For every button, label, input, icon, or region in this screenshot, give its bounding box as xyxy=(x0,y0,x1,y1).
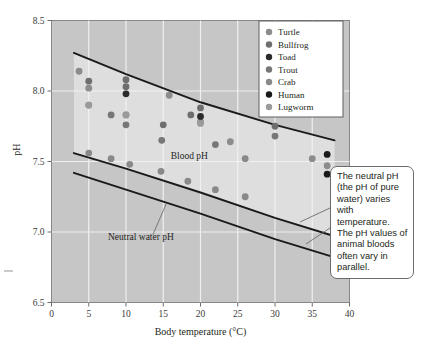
data-point-human xyxy=(324,151,331,158)
legend-marker-lugworm xyxy=(266,104,272,110)
data-point-turtle xyxy=(166,92,173,99)
legend-marker-trout xyxy=(266,66,272,72)
data-point-toad xyxy=(197,113,204,120)
data-point-bullfrog xyxy=(272,123,279,130)
data-point-crab xyxy=(184,178,191,185)
data-point-turtle xyxy=(85,85,92,92)
y-tick-label: 7.0 xyxy=(33,227,45,237)
data-point-turtle xyxy=(76,68,83,75)
y-tick-label: 7.5 xyxy=(33,157,45,167)
data-point-trout xyxy=(108,112,115,119)
data-point-lugworm xyxy=(123,112,130,119)
x-tick-label: 15 xyxy=(159,309,169,319)
data-point-turtle xyxy=(324,162,331,169)
x-tick-label: 35 xyxy=(308,309,318,319)
data-point-crab xyxy=(85,150,92,157)
legend-label-lugworm[interactable]: Lugworm xyxy=(278,102,314,112)
y-tick-label: 6.5 xyxy=(33,298,45,308)
data-point-bullfrog xyxy=(160,121,167,128)
legend-label-trout[interactable]: Trout xyxy=(278,65,298,75)
data-point-turtle xyxy=(227,138,234,145)
data-point-crab xyxy=(242,155,249,162)
data-point-toad xyxy=(123,90,130,97)
legend-label-bullfrog[interactable]: Bullfrog xyxy=(278,40,309,50)
data-point-turtle xyxy=(309,155,316,162)
legend-marker-toad xyxy=(266,54,272,60)
data-point-crab xyxy=(126,161,133,168)
data-point-crab xyxy=(212,186,219,193)
legend-marker-crab xyxy=(266,79,272,85)
data-point-bullfrog xyxy=(85,78,92,85)
x-tick-label: 20 xyxy=(196,309,206,319)
data-point-bullfrog xyxy=(197,105,204,112)
legend-label-human[interactable]: Human xyxy=(278,90,305,100)
data-point-bullfrog xyxy=(123,83,130,90)
x-tick-label: 10 xyxy=(121,309,131,319)
annotation-blood-ph: Blood pH xyxy=(171,151,208,161)
legend[interactable]: TurtleBullfrogToadTroutCrabHumanLugworm xyxy=(259,21,343,117)
legend-label-toad[interactable]: Toad xyxy=(278,52,296,62)
annotation-neutral-water-ph: Neutral water pH xyxy=(108,232,174,242)
data-point-bullfrog xyxy=(187,112,194,119)
x-tick-label: 30 xyxy=(270,309,280,319)
data-point-trout xyxy=(158,137,165,144)
x-axis-title: Body temperature (°C) xyxy=(155,326,247,338)
x-tick-label: 5 xyxy=(86,309,91,319)
data-point-lugworm xyxy=(197,120,204,127)
figure-root: Blood pHNeutral water pH 051015202530354… xyxy=(0,0,421,348)
y-tick-label: 8.5 xyxy=(33,16,45,26)
data-point-crab xyxy=(158,168,165,175)
data-point-crab xyxy=(242,193,249,200)
legend-marker-turtle xyxy=(266,29,272,35)
callout-text: The neutral pH (the pH of pure water) va… xyxy=(337,171,407,272)
data-point-crab xyxy=(108,155,115,162)
x-tick-label: 25 xyxy=(233,309,243,319)
data-point-trout xyxy=(123,121,130,128)
data-point-bullfrog xyxy=(123,76,130,83)
legend-marker-human xyxy=(266,91,272,97)
x-tick-label: 40 xyxy=(345,309,355,319)
stray-margin-mark xyxy=(4,270,13,272)
data-point-trout xyxy=(212,141,219,148)
legend-marker-bullfrog xyxy=(266,41,272,47)
y-tick-label: 8.0 xyxy=(33,86,45,96)
callout-note: The neutral pH (the pH of pure water) va… xyxy=(330,166,414,279)
x-tick-label: 0 xyxy=(49,309,54,319)
data-point-trout xyxy=(272,133,279,140)
legend-label-crab[interactable]: Crab xyxy=(278,77,296,87)
legend-label-turtle[interactable]: Turtle xyxy=(278,27,300,37)
y-axis-title: pH xyxy=(11,143,22,155)
data-point-lugworm xyxy=(85,102,92,109)
